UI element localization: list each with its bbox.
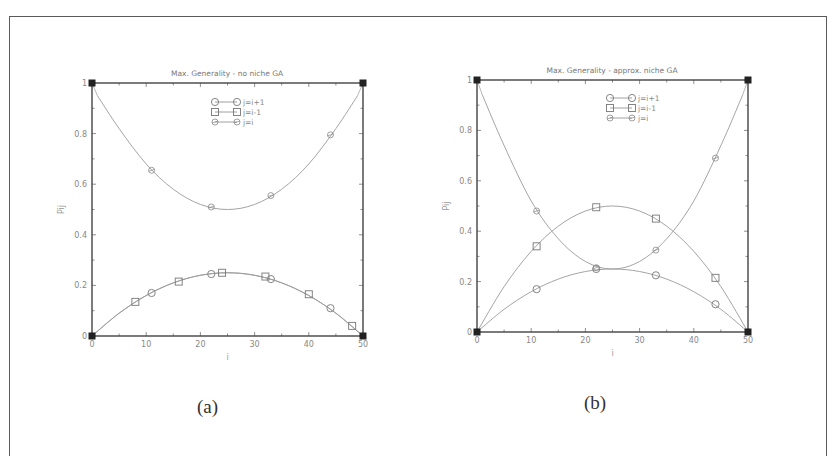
corner-marker bbox=[745, 77, 752, 84]
x-tick-label: 30 bbox=[635, 336, 645, 345]
corner-marker bbox=[89, 333, 96, 340]
corner-marker bbox=[474, 329, 481, 336]
x-tick-label: 20 bbox=[580, 336, 590, 345]
y-axis-label: Pij bbox=[442, 201, 451, 210]
data-point-marker bbox=[149, 167, 155, 173]
y-tick-label: 0.6 bbox=[74, 180, 87, 189]
x-tick-label: 50 bbox=[743, 336, 753, 345]
chart-title: Max. Generality - approx. niche GA bbox=[546, 66, 678, 75]
series-line-1 bbox=[92, 273, 363, 336]
legend-label: j=i bbox=[242, 118, 253, 127]
corner-marker bbox=[474, 77, 481, 84]
data-point-marker bbox=[534, 208, 540, 214]
x-axis-label: i bbox=[226, 353, 228, 362]
series-line-2 bbox=[97, 96, 357, 210]
y-tick-label: 0 bbox=[467, 328, 472, 337]
legend-label: j=i-1 bbox=[637, 104, 656, 113]
y-tick-label: 0.6 bbox=[459, 177, 472, 186]
corner-marker bbox=[360, 80, 367, 87]
legend-label: j=i+1 bbox=[637, 94, 660, 103]
y-tick-label: 1 bbox=[467, 76, 472, 85]
corner-marker bbox=[89, 80, 96, 87]
legend: j=i+1j=i-1j=i bbox=[211, 98, 264, 127]
y-axis-label: Pij bbox=[57, 205, 66, 214]
data-point-marker bbox=[533, 243, 540, 250]
x-tick-label: 10 bbox=[526, 336, 536, 345]
legend-label: j=i bbox=[637, 114, 648, 123]
legend-label: j=i+1 bbox=[242, 98, 265, 107]
legend: j=i+1j=i-1j=i bbox=[606, 94, 659, 123]
x-tick-label: 40 bbox=[689, 336, 699, 345]
x-tick-label: 10 bbox=[141, 340, 151, 349]
x-tick-label: 50 bbox=[358, 340, 368, 349]
y-tick-label: 0.8 bbox=[74, 130, 87, 139]
data-point-marker bbox=[653, 247, 659, 253]
series-line-0 bbox=[477, 269, 748, 332]
x-tick-label: 0 bbox=[89, 340, 94, 349]
y-tick-label: 0.4 bbox=[74, 231, 87, 240]
y-tick-label: 0.8 bbox=[459, 126, 472, 135]
data-point-marker bbox=[712, 155, 718, 161]
legend-label: j=i-1 bbox=[242, 108, 261, 117]
data-point-marker bbox=[712, 301, 719, 308]
x-tick-label: 20 bbox=[195, 340, 205, 349]
data-point-marker bbox=[327, 132, 333, 138]
y-tick-label: 0.4 bbox=[459, 227, 472, 236]
series-line-2 bbox=[482, 95, 742, 269]
y-tick-label: 0.2 bbox=[74, 281, 87, 290]
chart-panel-a: Max. Generality - no niche GA01020304050… bbox=[57, 69, 368, 362]
corner-marker bbox=[745, 329, 752, 336]
x-tick-label: 0 bbox=[474, 336, 479, 345]
caption-b: (b) bbox=[584, 392, 606, 414]
corner-marker bbox=[360, 333, 367, 340]
x-axis-label: i bbox=[611, 349, 613, 358]
x-tick-label: 30 bbox=[250, 340, 260, 349]
x-tick-label: 40 bbox=[304, 340, 314, 349]
chart-title: Max. Generality - no niche GA bbox=[171, 69, 284, 78]
series-line-0 bbox=[92, 273, 363, 336]
caption-a: (a) bbox=[197, 396, 218, 418]
chart-panel-b: Max. Generality - approx. niche GA010203… bbox=[442, 66, 753, 358]
y-tick-label: 0 bbox=[82, 332, 87, 341]
y-tick-label: 1 bbox=[82, 79, 87, 88]
y-tick-label: 0.2 bbox=[459, 278, 472, 287]
